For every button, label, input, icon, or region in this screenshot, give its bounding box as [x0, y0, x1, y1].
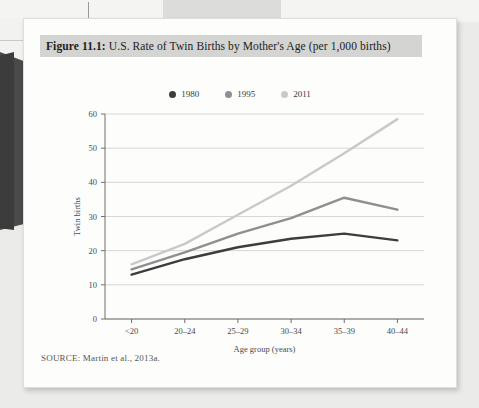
- figure-card: Figure 11.1: U.S. Rate of Twin Births by…: [23, 18, 457, 388]
- chart-svg: 0102030405060 <2020–2425–2930–3435–3940–…: [24, 19, 456, 387]
- gridlines: [105, 114, 424, 319]
- x-tick-label: 30–34: [280, 326, 302, 336]
- y-tick-label: 20: [89, 246, 98, 256]
- y-tick-label: 60: [89, 109, 98, 119]
- y-tick-label: 40: [89, 177, 98, 187]
- series-line-1995: [132, 198, 398, 270]
- y-tick-label: 10: [89, 280, 98, 290]
- y-axis-label: Twin births: [72, 197, 82, 236]
- y-tick-label: 30: [89, 212, 98, 222]
- page-curl-shadow-inner: [0, 52, 14, 230]
- y-tick-label: 50: [89, 143, 98, 153]
- x-tick-label: 40–44: [387, 326, 409, 336]
- x-tick-label: 20–24: [174, 326, 196, 336]
- x-axis-ticks: <2020–2425–2930–3435–3940–44: [125, 319, 409, 336]
- x-axis-label: Age group (years): [234, 344, 296, 354]
- series-line-1980: [132, 234, 398, 275]
- x-tick-label: <20: [125, 326, 138, 336]
- chart-plot-area: 0102030405060 <2020–2425–2930–3435–3940–…: [24, 19, 456, 387]
- y-axis-ticks: 0102030405060: [89, 109, 106, 324]
- series-lines: [132, 119, 398, 274]
- y-tick-label: 0: [93, 314, 97, 324]
- x-tick-label: 25–29: [227, 326, 248, 336]
- source-note: SOURCE: Martin et al., 2013a.: [41, 353, 160, 363]
- x-tick-label: 35–39: [334, 326, 355, 336]
